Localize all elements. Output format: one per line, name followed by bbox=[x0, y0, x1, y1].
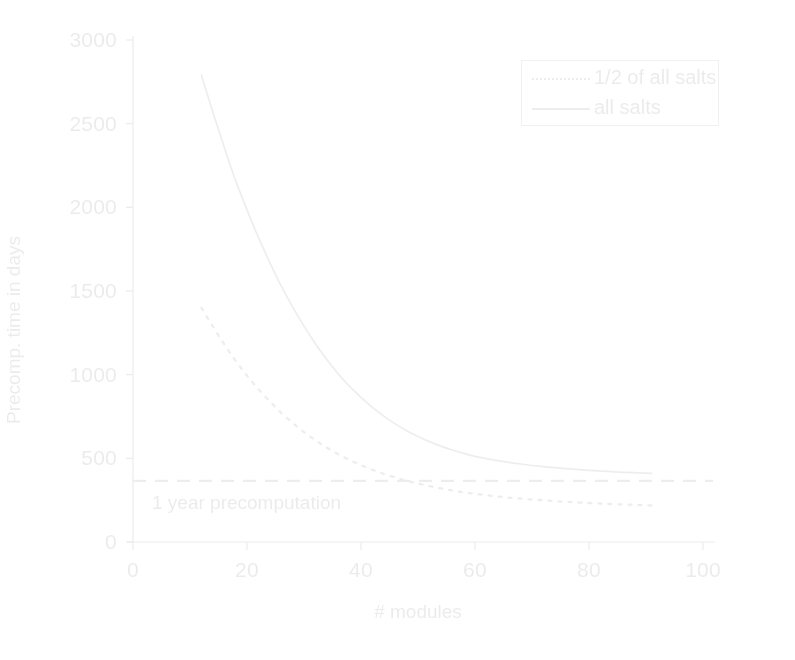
series-group bbox=[201, 75, 651, 505]
x-axis-tick-label: 40 bbox=[349, 558, 373, 582]
legend-dotted-line-icon bbox=[532, 71, 590, 85]
chart-figure: 050010001500200025003000 020406080100 Pr… bbox=[0, 0, 795, 660]
legend-item-label: all salts bbox=[594, 96, 661, 119]
legend: 1/2 of all salts all salts bbox=[521, 60, 719, 126]
legend-solid-line-icon bbox=[532, 101, 590, 115]
x-axis-tick-label: 80 bbox=[577, 558, 601, 582]
series-line bbox=[201, 308, 651, 506]
x-axis-tick-label: 100 bbox=[685, 558, 721, 582]
legend-item-all-salts: all salts bbox=[522, 91, 718, 124]
y-axis-tick-label: 3000 bbox=[0, 28, 117, 52]
y-axis-tick-label: 2000 bbox=[0, 195, 117, 219]
x-axis-tick-label: 0 bbox=[127, 558, 139, 582]
series-line bbox=[201, 75, 651, 473]
x-axis-tick-label: 20 bbox=[235, 558, 259, 582]
x-axis-title: # modules bbox=[374, 601, 462, 623]
threshold-annotation-label: 1 year precomputation bbox=[152, 492, 341, 514]
x-axis-tick-label: 60 bbox=[463, 558, 487, 582]
legend-item-half-salts: 1/2 of all salts bbox=[522, 61, 718, 94]
y-axis-tick-label: 500 bbox=[0, 446, 117, 470]
y-axis-tick-label: 2500 bbox=[0, 112, 117, 136]
legend-item-label: 1/2 of all salts bbox=[594, 66, 716, 89]
y-axis-title: Precomp. time in days bbox=[3, 236, 25, 424]
y-axis-tick-label: 0 bbox=[0, 530, 117, 554]
